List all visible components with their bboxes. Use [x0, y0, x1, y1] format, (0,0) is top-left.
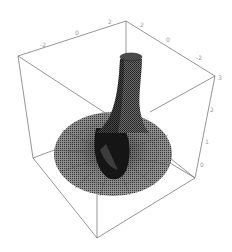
z-axis-ticks: 3 2 1 0 — [200, 74, 222, 168]
x-tick: 0 — [75, 29, 79, 36]
x-axis-ticks: -2 0 2 — [40, 18, 112, 48]
x-tick: -2 — [40, 41, 46, 48]
y-tick: 2 — [140, 21, 144, 28]
surface-plot: -2 0 2 2 0 -2 3 2 1 0 — [0, 0, 232, 252]
y-tick: 0 — [166, 36, 170, 43]
y-tick: -2 — [196, 54, 202, 61]
z-tick: 1 — [205, 138, 209, 145]
z-tick: 0 — [200, 161, 204, 168]
z-tick: 2 — [210, 106, 214, 113]
y-axis-ticks: 2 0 -2 — [140, 21, 202, 61]
x-tick: 2 — [108, 18, 112, 25]
z-tick: 3 — [218, 74, 222, 81]
surface-mesh — [54, 53, 172, 196]
